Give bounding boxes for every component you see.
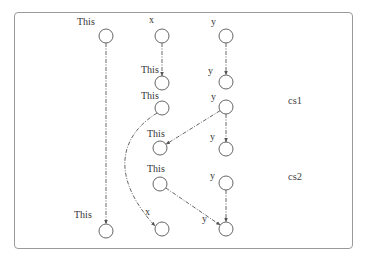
node-label: y [211,17,216,27]
region-label-cs2: cs2 [288,172,302,183]
diagram-canvas: ThisxyThisyThisyThisyThisyThisxycs1cs2 [0,0,367,263]
node-label: y [211,92,216,102]
node-n7 [219,100,233,114]
node-label: y [210,132,215,142]
node-n2 [155,29,169,43]
node-n4 [155,76,169,90]
node-label: This [74,210,92,220]
node-label: y [210,171,215,181]
graph-svg [0,0,367,263]
node-n10 [153,177,167,191]
node-label: This [141,65,159,75]
node-n11 [219,176,233,190]
node-n12 [99,224,113,238]
node-label: x [145,207,150,217]
node-n8 [153,141,167,155]
edge-n10-n14 [166,188,220,225]
node-n9 [219,142,233,156]
node-n5 [219,75,233,89]
node-label: y [208,66,213,76]
node-n6 [155,101,169,115]
node-label: This [147,164,165,174]
node-label: y [202,214,207,224]
node-label: This [141,91,159,101]
node-n14 [219,222,233,236]
node-n13 [155,222,169,236]
region-label-cs1: cs1 [288,96,302,107]
node-n1 [99,29,113,43]
node-label: x [149,15,154,25]
node-label: This [77,17,95,27]
node-label: This [147,129,165,139]
node-n3 [219,29,233,43]
